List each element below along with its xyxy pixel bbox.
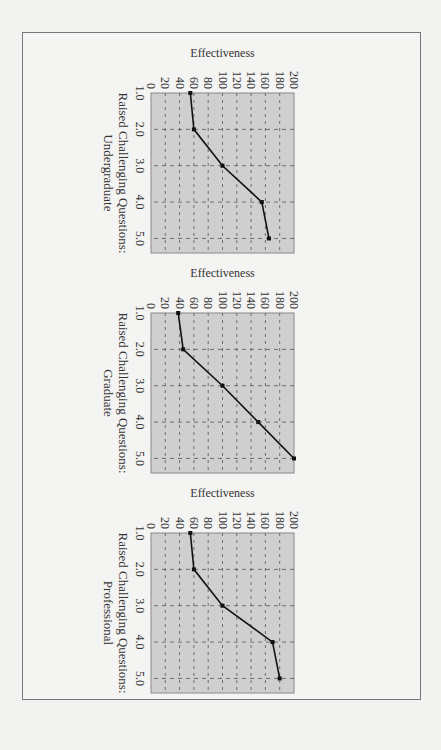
y-tick-label: 60 [187, 297, 201, 309]
y-axis-title: Effectiveness [190, 46, 255, 60]
x-axis-subtitle: Graduate [101, 369, 116, 417]
y-tick-label: 120 [230, 71, 244, 89]
data-point-marker [271, 640, 275, 644]
x-axis-subtitle: Undergraduate [101, 134, 116, 211]
data-point-marker [292, 456, 296, 460]
y-tick-label: 100 [216, 71, 230, 89]
x-tick-label: 4.0 [133, 635, 147, 650]
y-tick-label: 180 [273, 71, 287, 89]
x-axis-subtitle: Professional [101, 581, 116, 646]
y-tick-label: 20 [158, 517, 172, 529]
y-axis-title: Effectiveness [190, 266, 255, 280]
y-tick-label: 140 [244, 511, 258, 529]
y-tick-label: 60 [187, 77, 201, 89]
data-point-marker [192, 567, 196, 571]
y-tick-label: 160 [258, 291, 272, 309]
figure-frame: 0204060801001201401601802001.02.03.04.05… [22, 32, 421, 700]
x-tick-label: 2.0 [133, 562, 147, 577]
data-point-marker [221, 384, 225, 388]
chart-professional: 0204060801001201401601802001.02.03.04.05… [21, 477, 420, 699]
x-tick-label: 3.0 [133, 158, 147, 173]
data-point-marker [181, 347, 185, 351]
y-tick-label: 120 [230, 511, 244, 529]
y-tick-label: 180 [273, 511, 287, 529]
x-tick-label: 4.0 [133, 195, 147, 210]
chart-graduate: 0204060801001201401601802001.02.03.04.05… [21, 257, 420, 479]
y-tick-label: 100 [216, 291, 230, 309]
data-point-marker [260, 200, 264, 204]
x-tick-label: 2.0 [133, 122, 147, 137]
x-tick-label: 3.0 [133, 598, 147, 613]
y-tick-label: 180 [273, 291, 287, 309]
data-point-marker [278, 676, 282, 680]
y-tick-label: 120 [230, 291, 244, 309]
y-tick-label: 20 [158, 297, 172, 309]
data-point-marker [267, 236, 271, 240]
y-tick-label: 140 [244, 291, 258, 309]
x-tick-label: 5.0 [133, 451, 147, 466]
y-tick-label: 40 [173, 517, 187, 529]
data-point-marker [256, 420, 260, 424]
y-tick-label: 60 [187, 517, 201, 529]
line-chart: 0204060801001201401601802001.02.03.04.05… [21, 37, 420, 259]
x-axis-title: Raised Challenging Questions: [116, 312, 131, 473]
x-tick-label: 1.0 [133, 306, 147, 321]
x-tick-label: 5.0 [133, 231, 147, 246]
y-tick-label: 140 [244, 71, 258, 89]
x-tick-label: 4.0 [133, 415, 147, 430]
y-tick-label: 160 [258, 511, 272, 529]
y-tick-label: 160 [258, 71, 272, 89]
data-point-marker [221, 164, 225, 168]
x-tick-label: 1.0 [133, 86, 147, 101]
data-point-marker [221, 604, 225, 608]
data-point-marker [192, 127, 196, 131]
data-point-marker [176, 311, 180, 315]
x-tick-label: 2.0 [133, 342, 147, 357]
y-tick-label: 80 [201, 517, 215, 529]
chart-undergraduate: 0204060801001201401601802001.02.03.04.05… [21, 37, 420, 259]
data-point-marker [188, 91, 192, 95]
y-tick-label: 80 [201, 77, 215, 89]
y-tick-label: 200 [287, 511, 301, 529]
data-point-marker [188, 531, 192, 535]
y-tick-label: 200 [287, 71, 301, 89]
y-tick-label: 40 [173, 297, 187, 309]
x-axis-title: Raised Challenging Questions: [116, 532, 131, 693]
x-tick-label: 1.0 [133, 526, 147, 541]
x-tick-label: 5.0 [133, 671, 147, 686]
line-chart: 0204060801001201401601802001.02.03.04.05… [21, 477, 420, 699]
y-tick-label: 40 [173, 77, 187, 89]
y-tick-label: 20 [158, 77, 172, 89]
y-tick-label: 100 [216, 511, 230, 529]
y-tick-label: 80 [201, 297, 215, 309]
line-chart: 0204060801001201401601802001.02.03.04.05… [21, 257, 420, 479]
x-tick-label: 3.0 [133, 378, 147, 393]
x-axis-title: Raised Challenging Questions: [116, 92, 131, 253]
y-axis-title: Effectiveness [190, 486, 255, 500]
y-tick-label: 200 [287, 291, 301, 309]
